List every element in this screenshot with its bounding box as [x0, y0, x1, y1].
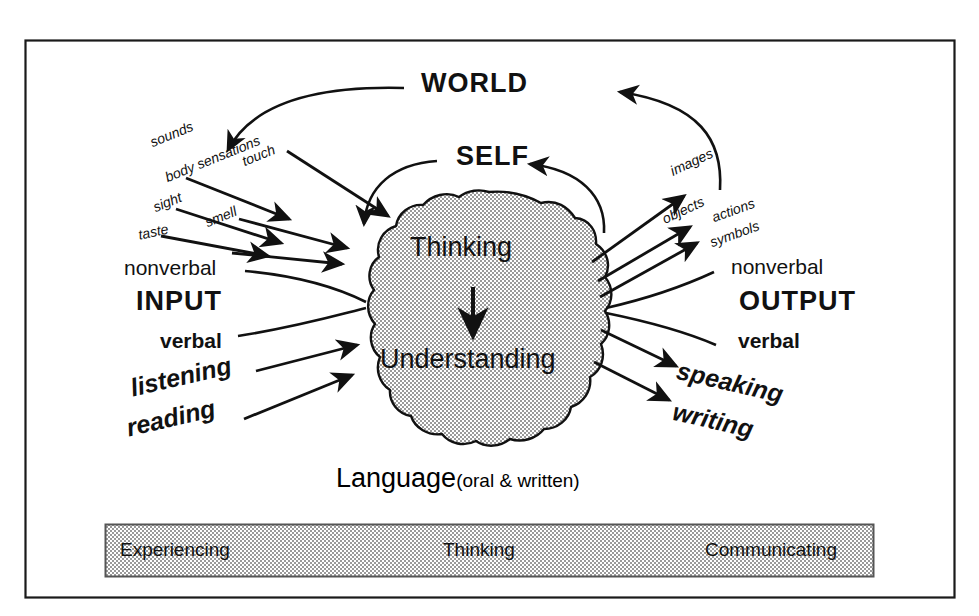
output-heading: OUTPUT: [739, 288, 856, 315]
input-heading: INPUT: [136, 288, 222, 315]
world-arc-right: [620, 92, 720, 190]
input-verbal-arrows: [244, 345, 357, 419]
output-nonverbal-connector: [606, 272, 714, 308]
input-verbal-label: verbal: [160, 330, 222, 351]
language-caption-paren: (oral & written): [456, 470, 580, 491]
language-caption: Language(oral & written): [336, 463, 580, 494]
brain-thinking-label: Thinking: [410, 232, 512, 263]
input-verbal-connector: [238, 308, 366, 336]
self-cycle-label: SELF: [456, 143, 529, 170]
output-verbal-arrows: [594, 330, 676, 400]
bar-cell-communicating: Communicating: [705, 539, 837, 561]
diagram-canvas: WORLD SELF Thinking Understanding sounds…: [0, 0, 979, 616]
input-nonverbal-connector: [245, 271, 366, 302]
input-nonverbal-label: nonverbal: [124, 257, 216, 278]
brain-understanding-label: Understanding: [380, 344, 556, 375]
output-verbal-label: verbal: [738, 330, 800, 351]
bar-cell-thinking: Thinking: [443, 539, 515, 561]
brain-blob-shape: [368, 190, 611, 445]
world-cycle-label: WORLD: [421, 70, 528, 97]
language-caption-main: Language: [336, 463, 456, 493]
output-nonverbal-label: nonverbal: [731, 256, 823, 277]
bar-cell-experiencing: Experiencing: [120, 539, 230, 561]
